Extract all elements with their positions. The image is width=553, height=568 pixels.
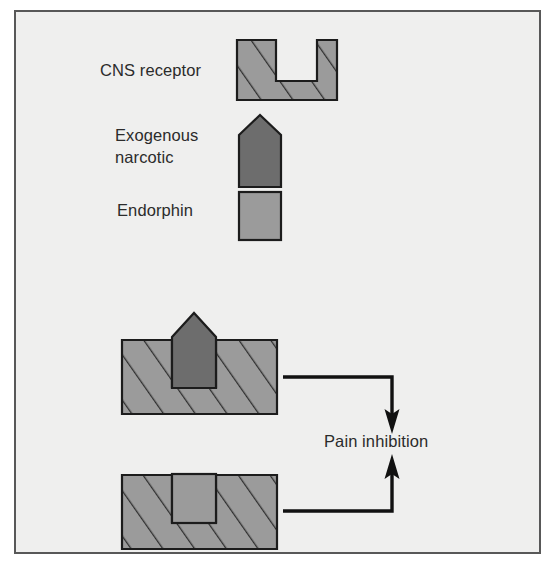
endorphin-swatch xyxy=(239,192,281,240)
cns-receptor-diagram: CNS receptor Exogenous narcotic Endorphi… xyxy=(0,0,553,568)
legend-label-endorphin: Endorphin xyxy=(117,201,193,219)
legend-label-cns-receptor: CNS receptor xyxy=(100,61,202,79)
bound-endorphin xyxy=(172,474,216,523)
endorphin-bound-receptor xyxy=(115,468,285,558)
figure-root: CNS receptor Exogenous narcotic Endorphi… xyxy=(0,0,553,568)
legend-label-exogenous-narcotic-line1: Exogenous xyxy=(115,126,198,144)
legend-label-exogenous-narcotic-line2: narcotic xyxy=(115,148,174,166)
pain-inhibition-label: Pain inhibition xyxy=(324,432,428,450)
